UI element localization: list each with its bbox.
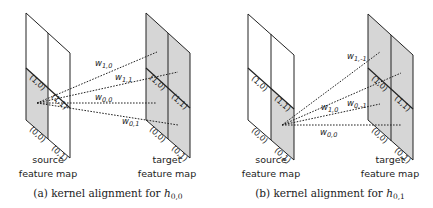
weight-label: w0,0 (320, 127, 337, 139)
weight-label: w1,-1 (347, 51, 367, 63)
weight-label: w0,1 (122, 116, 139, 128)
target-label-line1: target (153, 154, 182, 165)
source-label-line2: feature map (242, 168, 300, 179)
source-label-line2: feature map (19, 168, 77, 179)
panel-a: (1,0) (1,1) (0,0) (0,1) (1,0) (1,1) (0,0… (19, 13, 196, 201)
weight-label: w1,0 (95, 58, 112, 70)
target-label-line1: target (376, 154, 405, 165)
source-cell-label: (1,0) (250, 74, 270, 94)
source-feature-map-a: (1,0) (1,1) (0,0) (0,1) (26, 13, 70, 163)
weight-label: w1,1 (115, 72, 132, 84)
weight-label: w0,0 (95, 92, 112, 104)
kernel-alignment-diagram: (1,0) (1,1) (0,0) (0,1) (1,0) (1,1) (0,0… (0, 0, 433, 208)
source-label-line1: source (32, 154, 64, 165)
target-feature-map-b: (1,0) (1,1) (0,0) (0,1) (368, 14, 413, 165)
source-cell-label: (0,0) (250, 126, 270, 146)
panel-b: (1,0) (1,1) (0,0) (0,1) (1,0) (1,1) (0,0… (242, 14, 419, 201)
weight-label: w0,-1 (347, 98, 367, 110)
caption-b: (b) kernel alignment for h0,1 (255, 187, 405, 201)
target-feature-map-a: (1,0) (1,1) (0,0) (0,1) (146, 13, 190, 163)
source-label-line1: source (255, 154, 287, 165)
source-feature-map-b: (1,0) (1,1) (0,0) (0,1) (248, 14, 294, 165)
source-cell-label: (1,1) (50, 92, 70, 112)
target-label-line2: feature map (361, 168, 419, 179)
caption-a: (a) kernel alignment for h0,0 (33, 187, 182, 201)
target-label-line2: feature map (138, 168, 196, 179)
